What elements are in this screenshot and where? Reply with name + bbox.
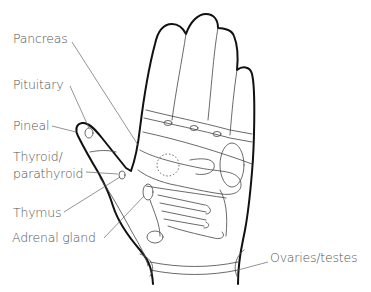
label-thyroid: Thyroid/	[13, 150, 63, 164]
label-pituitary: Pituitary	[13, 78, 63, 92]
hand-outline	[76, 14, 254, 284]
label-ovaries-testes: Ovaries/testes	[270, 251, 357, 265]
label-adrenal-gland: Adrenal gland	[12, 231, 96, 245]
palm-regions	[138, 143, 244, 278]
label-pancreas: Pancreas	[13, 32, 68, 46]
thumb-details	[85, 128, 148, 266]
label-pineal: Pineal	[13, 119, 49, 133]
label-thymus: Thymus	[13, 206, 61, 220]
label-parathyroid: parathyroid	[13, 167, 83, 181]
